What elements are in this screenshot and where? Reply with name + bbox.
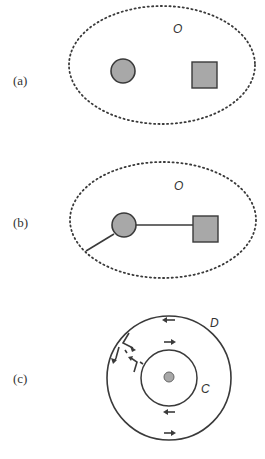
region-o-ellipse — [69, 6, 255, 124]
panel-c: (c) D C — [13, 316, 231, 440]
panel-c-label: (c) — [13, 371, 27, 386]
panel-a-label: (a) — [13, 73, 27, 88]
region-o-label: O — [174, 179, 183, 193]
gray-circle — [112, 213, 136, 237]
panel-a: (a) O — [13, 6, 255, 124]
boundary-line — [86, 234, 114, 251]
outer-label-d: D — [210, 316, 219, 330]
figure-canvas: (a) O (b) O (c) D C — [0, 0, 265, 459]
region-o-ellipse — [70, 162, 256, 278]
inner-label-c: C — [201, 382, 210, 396]
center-dot — [164, 372, 174, 382]
region-o-label: O — [173, 22, 182, 36]
gray-square — [192, 62, 217, 88]
gray-circle — [111, 59, 135, 83]
turbulent-arrow-icon — [131, 358, 137, 372]
panel-b-label: (b) — [13, 215, 28, 230]
panel-b: (b) O — [13, 162, 256, 278]
gray-square — [193, 216, 218, 242]
